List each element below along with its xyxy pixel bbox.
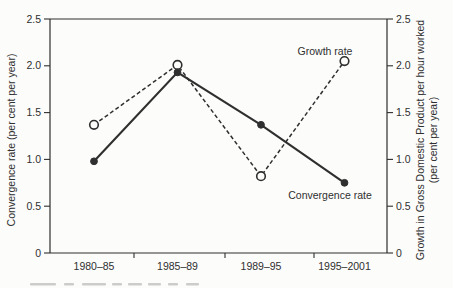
marker-open-circle xyxy=(340,57,349,66)
left-axis-tick-label: 1.0 xyxy=(26,153,41,165)
left-axis-tick-label: 0 xyxy=(35,247,41,259)
left-axis-tick-label: 2.0 xyxy=(26,59,41,71)
marker-open-circle xyxy=(173,61,182,70)
marker-open-circle xyxy=(90,121,99,130)
right-axis-title-line1: Growth in Gross Domestic Product per hou… xyxy=(414,20,426,261)
cropped-caption-fragment xyxy=(128,283,142,286)
cropped-caption-fragment xyxy=(186,283,199,286)
cropped-caption-fragment xyxy=(30,283,56,286)
right-axis-tick-label: 2.0 xyxy=(396,59,411,71)
cropped-caption-fragment xyxy=(148,283,161,286)
cropped-caption-fragment xyxy=(82,283,106,286)
marker-filled-circle xyxy=(174,69,181,76)
cropped-caption-fragment xyxy=(168,283,178,286)
growth-rate-series-label: Growth rate xyxy=(298,45,353,57)
scanned-chart-page: 2.52.52.02.01.51.51.01.00.50.5001980–851… xyxy=(0,0,453,288)
marker-filled-circle xyxy=(341,179,348,186)
x-axis-category-label: 1995–2001 xyxy=(318,260,371,272)
right-axis-title-line2: (per cent per year) xyxy=(427,97,439,183)
series-line-convergence-rate xyxy=(94,72,345,182)
cropped-caption-fragment xyxy=(64,283,74,286)
right-axis-tick-label: 2.5 xyxy=(396,13,411,25)
convergence-rate-series-label: Convergence rate xyxy=(288,189,372,201)
series-line-growth-rate xyxy=(94,61,345,176)
right-axis-tick-label: 0 xyxy=(396,247,402,259)
marker-filled-circle xyxy=(91,158,98,165)
left-axis-tick-label: 2.5 xyxy=(26,13,41,25)
left-axis-tick-label: 0.5 xyxy=(26,200,41,212)
convergence-growth-line-chart: 2.52.52.02.01.51.51.01.00.50.5001980–851… xyxy=(0,0,453,288)
right-axis-tick-label: 1.0 xyxy=(396,153,411,165)
left-axis-title: Convergence rate (per cent per year) xyxy=(5,54,17,227)
x-axis-category-label: 1985–89 xyxy=(157,260,198,272)
x-axis-category-label: 1980–85 xyxy=(74,260,115,272)
left-axis-tick-label: 1.5 xyxy=(26,106,41,118)
marker-filled-circle xyxy=(258,121,265,128)
marker-open-circle xyxy=(257,172,266,181)
right-axis-tick-label: 0.5 xyxy=(396,200,411,212)
right-axis-tick-label: 1.5 xyxy=(396,106,411,118)
x-axis-category-label: 1989–95 xyxy=(241,260,282,272)
cropped-caption-fragment xyxy=(112,283,122,286)
